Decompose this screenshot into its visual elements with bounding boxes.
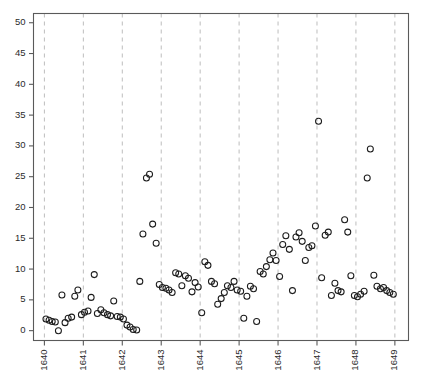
data-point <box>231 278 237 284</box>
data-point <box>215 301 221 307</box>
data-point <box>244 293 250 299</box>
y-tick-label-40: 40 <box>15 78 26 89</box>
data-point <box>150 221 156 227</box>
data-point <box>241 315 247 321</box>
data-point <box>134 327 140 333</box>
y-tick-label-25: 25 <box>15 170 26 181</box>
x-tick-label-1641: 1641 <box>77 350 88 371</box>
x-tick-label-1640: 1640 <box>38 350 49 371</box>
data-point <box>277 273 283 279</box>
data-point <box>328 293 334 299</box>
data-point <box>367 146 373 152</box>
data-point <box>283 233 289 239</box>
y-tick-label-50: 50 <box>15 16 26 27</box>
data-point <box>234 287 240 293</box>
y-tick-label-5: 5 <box>20 293 25 304</box>
data-point <box>296 230 302 236</box>
data-points-layer <box>43 118 396 333</box>
x-tick-label-1644: 1644 <box>194 350 205 371</box>
data-point <box>140 231 146 237</box>
data-point <box>293 234 299 240</box>
y-tick-label-30: 30 <box>15 139 26 150</box>
data-point <box>179 283 185 289</box>
data-point <box>273 257 279 263</box>
data-point <box>85 308 91 314</box>
x-tick-label-1645: 1645 <box>233 350 244 371</box>
data-point <box>218 296 224 302</box>
data-point <box>238 288 244 294</box>
scatter-plot-figure: 05101520253035404550 1640164116421643164… <box>0 0 424 383</box>
data-point <box>302 257 308 263</box>
x-tick-label-1649: 1649 <box>388 350 399 371</box>
data-point <box>69 314 75 320</box>
data-point <box>364 175 370 181</box>
y-tick-label-15: 15 <box>15 232 26 243</box>
data-point <box>59 292 65 298</box>
data-point <box>111 298 117 304</box>
data-point <box>371 272 377 278</box>
x-axis: 1640164116421643164416451646164716481649 <box>38 341 399 371</box>
data-point <box>289 288 295 294</box>
data-point <box>91 272 97 278</box>
data-point <box>62 320 68 326</box>
data-point <box>286 246 292 252</box>
data-point <box>342 217 348 223</box>
x-tick-label-1643: 1643 <box>155 350 166 371</box>
data-point <box>270 250 276 256</box>
data-point <box>332 280 338 286</box>
data-point <box>254 318 260 324</box>
x-tick-label-1642: 1642 <box>116 350 127 371</box>
y-axis: 05101520253035404550 <box>15 16 34 335</box>
data-point <box>189 289 195 295</box>
y-tick-label-0: 0 <box>20 324 25 335</box>
data-point <box>94 310 100 316</box>
data-point <box>153 240 159 246</box>
data-point <box>72 293 78 299</box>
x-tick-label-1647: 1647 <box>311 350 322 371</box>
data-point <box>299 238 305 244</box>
data-point <box>319 275 325 281</box>
data-point <box>55 328 61 334</box>
y-tick-label-20: 20 <box>15 201 26 212</box>
gridlines-layer <box>44 14 394 341</box>
data-point <box>345 229 351 235</box>
x-tick-label-1646: 1646 <box>272 350 283 371</box>
data-point <box>280 241 286 247</box>
data-point <box>88 294 94 300</box>
data-point <box>267 257 273 263</box>
data-point <box>221 289 227 295</box>
data-point <box>192 280 198 286</box>
plot-canvas: 05101520253035404550 1640164116421643164… <box>0 0 424 383</box>
data-point <box>316 118 322 124</box>
y-tick-label-45: 45 <box>15 47 26 58</box>
x-tick-label-1648: 1648 <box>349 350 360 371</box>
data-point <box>263 264 269 270</box>
data-point <box>137 278 143 284</box>
data-point <box>65 315 71 321</box>
data-point <box>312 223 318 229</box>
data-point <box>75 287 81 293</box>
data-point <box>348 273 354 279</box>
data-point <box>199 310 205 316</box>
y-tick-label-10: 10 <box>15 263 26 274</box>
y-tick-label-35: 35 <box>15 109 26 120</box>
